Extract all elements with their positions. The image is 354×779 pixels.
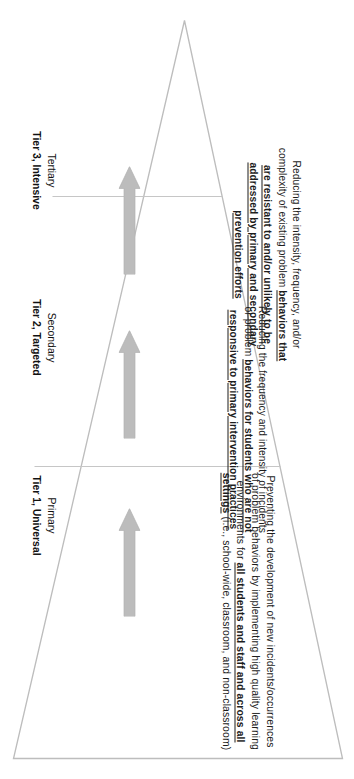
tier3-label-lead: Tertiary (43, 90, 58, 250)
tier1-label-lead: Primary (43, 430, 58, 600)
body-text: (i.e., school-wide, classroom, and non-c… (220, 513, 231, 750)
tier2-label-lead: Secondary (43, 252, 58, 422)
diagram-canvas: Reducing the intensity, frequency, and/o… (0, 0, 354, 779)
tier3-label: Tertiary Tier 3, Intensive (28, 90, 58, 250)
tier2-label: Secondary Tier 2, Targeted (28, 252, 58, 422)
tier1-description: Preventing the development of new incide… (217, 470, 276, 752)
tier2-label-strong: Tier 2, Targeted (28, 252, 43, 422)
tier1-label: Primary Tier 1, Universal (28, 430, 58, 600)
rotated-diagram-group: Reducing the intensity, frequency, and/o… (0, 0, 354, 779)
tier2-up-arrow-icon (118, 330, 140, 438)
tier3-up-arrow-icon (118, 166, 140, 274)
tier1-up-arrow-icon (118, 508, 140, 616)
tier1-label-strong: Tier 1, Universal (28, 430, 43, 600)
tier3-label-strong: Tier 3, Intensive (28, 90, 43, 250)
